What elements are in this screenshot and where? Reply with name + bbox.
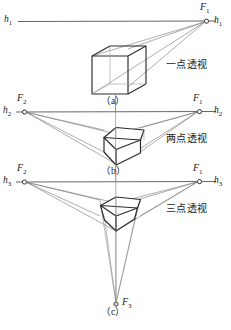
projection-rays-a bbox=[92, 22, 205, 94]
vanishing-point-label-F1-a: F1 bbox=[200, 2, 210, 15]
vanishing-point-F1-c bbox=[197, 180, 201, 184]
cube-a-hidden-edges bbox=[92, 46, 146, 94]
panel-a-caption: （a） bbox=[101, 97, 125, 107]
horizon-label-h2-right: h2 bbox=[214, 106, 222, 118]
horizon-label-h3-right: h3 bbox=[214, 176, 222, 188]
vanishing-point-F2-c bbox=[22, 180, 26, 184]
horizon-label-h1-left: h1 bbox=[4, 15, 12, 27]
vanishing-point-F1-b bbox=[197, 110, 201, 114]
vanishing-point-label-F1-c: F1 bbox=[193, 163, 203, 176]
perspective-figure: h1 h1 F1 一点透视 （a） h2 h2 F2 F1 两点透视 （b） h… bbox=[0, 0, 231, 330]
horizon-label-h1-right: h1 bbox=[214, 16, 222, 28]
projection-rays-b-left bbox=[27, 112, 117, 164]
horizon-label-h2-left: h2 bbox=[3, 106, 11, 118]
vanishing-point-label-F1-b: F1 bbox=[193, 93, 203, 106]
panel-c-caption: （c） bbox=[101, 308, 125, 318]
horizon-line-h1 bbox=[18, 21, 216, 22]
horizon-line-h2 bbox=[16, 112, 216, 113]
panel-a-type-label: 一点透视 bbox=[166, 60, 207, 70]
vanishing-point-label-F2-c: F2 bbox=[17, 163, 27, 176]
vanishing-point-label-F2-b: F2 bbox=[17, 93, 27, 106]
cube-one-point bbox=[92, 46, 146, 94]
horizon-label-h3-left: h3 bbox=[3, 176, 11, 188]
panel-c-group bbox=[16, 165, 216, 306]
panel-c-type-label: 三点透视 bbox=[166, 204, 207, 214]
vanishing-point-F2-b bbox=[22, 110, 26, 114]
cube-two-point bbox=[104, 128, 144, 166]
vanishing-point-F1-a bbox=[204, 19, 208, 23]
panel-b-type-label: 两点透视 bbox=[166, 134, 207, 144]
panel-b-caption: （b） bbox=[101, 167, 126, 177]
